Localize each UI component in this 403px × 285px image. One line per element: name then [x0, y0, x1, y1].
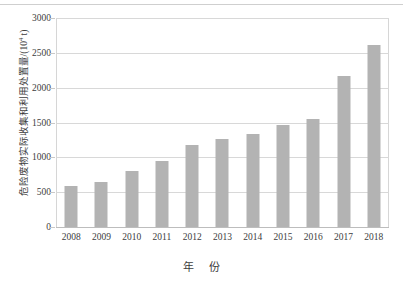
y-tick-mark-0 [50, 227, 55, 228]
y-tick-mark-3000 [50, 18, 55, 19]
y-tick-mark-1500 [50, 123, 55, 124]
page-edge-rule [0, 4, 403, 5]
x-axis-line [56, 227, 389, 228]
bar-2011[interactable] [155, 161, 168, 227]
x-axis-title: 年 份 [0, 258, 403, 274]
bar-2009[interactable] [95, 182, 108, 227]
bar-2018[interactable] [367, 45, 380, 228]
y-tick-mark-500 [50, 192, 55, 193]
y-tick-mark-2000 [50, 88, 55, 89]
bar-slot-2012 [177, 18, 207, 227]
y-axis-title: 危险废物实际收集和利用处置量/(104 t) [13, 18, 29, 208]
y-tick-mark-2500 [50, 53, 55, 54]
bar-series [56, 18, 389, 227]
bar-slot-2016 [298, 18, 328, 227]
bar-2014[interactable] [246, 134, 259, 227]
x-tick-label-2018: 2018 [354, 232, 394, 243]
bar-2015[interactable] [277, 125, 290, 227]
bar-slot-2018 [359, 18, 389, 227]
y-axis-title-unit-tail: t) [19, 30, 29, 38]
bar-2012[interactable] [186, 145, 199, 227]
bar-slot-2015 [268, 18, 298, 227]
plot-area [56, 18, 389, 228]
bar-slot-2014 [238, 18, 268, 227]
bar-slot-2013 [207, 18, 237, 227]
bar-slot-2011 [147, 18, 177, 227]
bar-2010[interactable] [125, 171, 138, 227]
bar-2008[interactable] [65, 186, 78, 227]
y-tick-mark-1000 [50, 157, 55, 158]
bar-2013[interactable] [216, 139, 229, 227]
y-axis-title-exponent: 4 [17, 38, 24, 41]
bar-slot-2008 [56, 18, 86, 227]
bar-slot-2009 [86, 18, 116, 227]
bar-chart-figure: 危险废物实际收集和利用处置量/(104 t) 05001000150020002… [0, 0, 403, 285]
bar-2016[interactable] [307, 119, 320, 227]
bar-2017[interactable] [337, 76, 350, 227]
bar-slot-2010 [117, 18, 147, 227]
bar-slot-2017 [328, 18, 358, 227]
